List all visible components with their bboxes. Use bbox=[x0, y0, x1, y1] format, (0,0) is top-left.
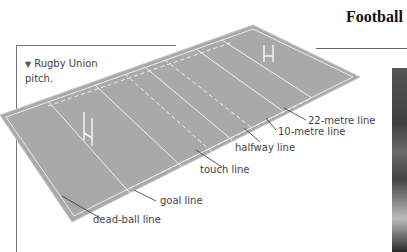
label-22-metre-line: 22-metre line bbox=[308, 115, 375, 126]
label-goal-line: goal line bbox=[160, 195, 203, 206]
photo-edge bbox=[392, 68, 407, 252]
rugby-pitch-diagram bbox=[0, 0, 407, 252]
label-halfway-line: halfway line bbox=[235, 142, 295, 153]
label-10-metre-line: 10-metre line bbox=[278, 126, 345, 137]
label-dead-ball-line: dead-ball line bbox=[93, 214, 161, 225]
label-touch-line: touch line bbox=[200, 164, 249, 175]
